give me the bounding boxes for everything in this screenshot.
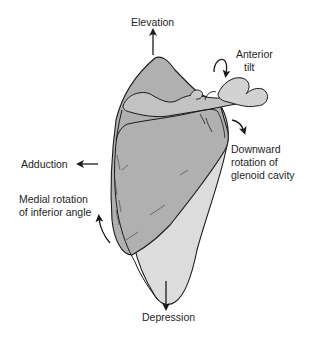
label-depression: Depression [142, 311, 195, 324]
scapula-movement-diagram: Elevation Anterior tilt Downward rotatio… [0, 0, 312, 338]
label-downward-rotation-1: Downward [231, 143, 281, 156]
label-elevation: Elevation [131, 16, 174, 29]
downward-rotation-arrow [232, 120, 244, 131]
label-medial-rotation-1: Medial rotation [19, 193, 88, 206]
label-anterior-tilt-2: tilt [244, 61, 255, 74]
anterior-tilt-arrow [214, 60, 227, 75]
label-downward-rotation-3: glenoid cavity [231, 169, 295, 182]
medial-rotation-arrow [99, 218, 110, 243]
label-downward-rotation-2: rotation of [231, 156, 278, 169]
label-adduction: Adduction [21, 158, 68, 171]
scapula-dark-body [111, 57, 228, 255]
label-medial-rotation-2: of inferior angle [19, 206, 91, 219]
label-anterior-tilt-1: Anterior [236, 48, 273, 61]
